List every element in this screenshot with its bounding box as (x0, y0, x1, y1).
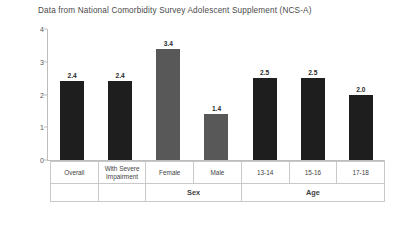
bar (156, 49, 180, 160)
bar-cell: 2.5 (241, 29, 289, 160)
category-label: Overall (51, 162, 99, 184)
bar-value-label: 2.5 (308, 69, 317, 76)
category-label: With Severe Impairment (98, 162, 146, 184)
group-label-row: SexAge (51, 184, 385, 202)
y-tick-mark (44, 160, 47, 161)
bar-cell: 2.5 (289, 29, 337, 160)
y-tick-mark (44, 29, 47, 30)
bar-value-label: 2.4 (116, 72, 125, 79)
bar (108, 81, 132, 160)
group-label-blank (98, 184, 146, 202)
y-tick-label: 4 (18, 26, 44, 33)
category-label: 17-18 (337, 162, 385, 184)
bar-cell: 3.4 (144, 29, 192, 160)
y-tick-mark (44, 127, 47, 128)
group-label-blank (51, 184, 99, 202)
bar-value-label: 2.5 (260, 69, 269, 76)
y-tick-label: 0 (18, 157, 44, 164)
y-tick-label: 1 (18, 124, 44, 131)
bar (204, 114, 228, 160)
bar-cell: 2.4 (96, 29, 144, 160)
bar-cell: 2.4 (48, 29, 96, 160)
bar-value-label: 1.4 (212, 105, 221, 112)
bar-value-label: 3.4 (164, 40, 173, 47)
category-label: 13-14 (241, 162, 289, 184)
category-label-row: OverallWith Severe ImpairmentFemaleMale1… (51, 162, 385, 184)
y-tick-label: 2 (18, 91, 44, 98)
bar-series: 2.42.43.41.42.52.52.0 (48, 29, 385, 160)
y-tick-label: 3 (18, 58, 44, 65)
bar (253, 78, 277, 160)
y-tick-mark (44, 94, 47, 95)
category-table: OverallWith Severe ImpairmentFemaleMale1… (50, 161, 385, 202)
category-label: Female (146, 162, 194, 184)
category-label: Male (194, 162, 242, 184)
bar-value-label: 2.0 (356, 86, 365, 93)
group-label: Age (241, 184, 384, 202)
group-label: Sex (146, 184, 241, 202)
bar-value-label: 2.4 (67, 72, 76, 79)
bar (301, 78, 325, 160)
chart-title: Data from National Comorbidity Survey Ad… (38, 6, 312, 15)
bar-cell: 2.0 (337, 29, 385, 160)
bar (60, 81, 84, 160)
category-label: 15-16 (289, 162, 337, 184)
bar (349, 95, 373, 161)
bar-chart: Data from National Comorbidity Survey Ad… (0, 0, 401, 226)
y-tick-mark (44, 61, 47, 62)
bar-cell: 1.4 (192, 29, 240, 160)
